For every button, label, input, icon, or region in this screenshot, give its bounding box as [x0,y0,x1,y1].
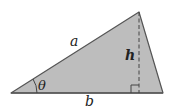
triangle-diagram: a h θ b [0,0,169,109]
label-base-b: b [85,93,94,109]
label-height-h: h [125,47,135,63]
label-side-a: a [70,33,78,49]
triangle-figure: a h θ b [0,0,169,109]
label-angle-theta: θ [38,78,46,93]
